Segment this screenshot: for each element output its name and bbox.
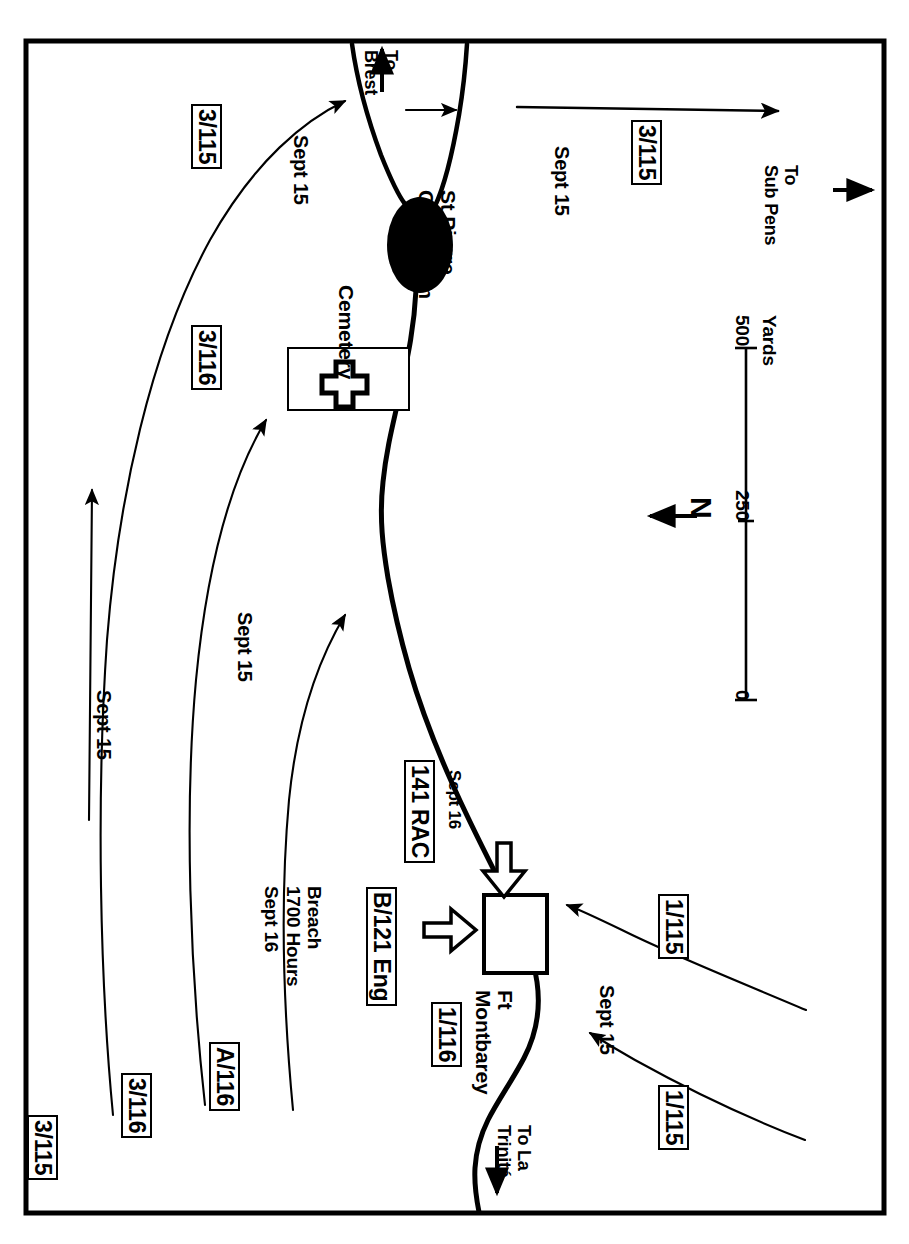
north-label: N <box>685 497 717 518</box>
unit-label-3-115-right: 3/115 <box>631 120 662 185</box>
place-label-ft-montbarey: Ft Montbarey <box>472 990 517 1094</box>
place-label-st-pierre-quilbignon: St Pierre Quilbignon <box>415 190 460 299</box>
map-container: 3/115 3/116 3/115 3/116 A/116 3/115 141 … <box>0 0 909 1244</box>
unit-label-3-115-top: 3/115 <box>191 104 222 169</box>
unit-label-1-116: 1/116 <box>431 1002 462 1067</box>
scale-tick-label-500: 500 <box>732 315 752 346</box>
scale-tick-label-0: 0 <box>732 690 752 700</box>
date-label-sept-15-town: Sept 15 <box>290 135 311 205</box>
unit-label-3-115-left: 3/115 <box>27 1115 58 1180</box>
unit-label-1-115-upper: 1/115 <box>658 894 689 959</box>
date-label-sept-15-mid: Sept 15 <box>234 612 255 682</box>
date-label-sept-15-left: Sept 15 <box>93 690 114 760</box>
date-label-sept-16-rac: Sept 16 <box>445 770 463 829</box>
unit-label-3-116-top: 3/116 <box>191 325 222 390</box>
unit-label-a-116: A/116 <box>209 1042 240 1111</box>
breach-annotation: Breach 1700 Hours Sept 16 <box>261 886 325 986</box>
scale-unit-label: Yards <box>759 315 779 366</box>
unit-label-3-116-left: 3/116 <box>121 1073 152 1138</box>
place-label-cemetery: Cemetery <box>335 285 357 379</box>
unit-label-141-rac: 141 RAC <box>404 760 435 863</box>
scale-tick-label-250: 250 <box>732 490 752 521</box>
ft-montbarey-symbol <box>484 895 547 973</box>
road-label-to-la-trinite: To La Trinité <box>493 1125 533 1178</box>
road-label-to-sub-pens: To Sub Pens <box>760 165 800 245</box>
unit-label-b-121-eng: B/121 Eng <box>366 887 397 1006</box>
date-label-sept-15-lower-right: Sept 15 <box>596 985 617 1055</box>
road-label-to-brest: To Brest <box>360 50 400 95</box>
unit-label-1-115-lower: 1/115 <box>658 1085 689 1150</box>
date-label-sept-15-right: Sept 15 <box>551 146 572 216</box>
